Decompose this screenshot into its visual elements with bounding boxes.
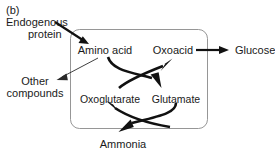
node-label-amino-acid: Amino acid [78,44,132,56]
arrow-oxoacid-to-glucose [196,46,229,54]
arrow-oxoglutarate-to-oxoacid [119,59,173,89]
pathway-diagram: (b) [0,0,275,153]
node-label-glucose: Glucose [235,44,275,56]
arrow-amino-acid-to-other-compounds [57,58,99,80]
node-label-other-compounds-line2: compounds [7,87,64,99]
node-label-oxoacid: Oxoacid [153,44,193,56]
node-label-endogenous-protein-line2: protein [28,28,62,40]
node-label-oxoglutarate: Oxoglutarate [80,93,140,105]
node-label-other-compounds-line1: Other [21,75,49,87]
node-label-ammonia: Ammonia [100,138,147,150]
node-label-glutamate: Glutamate [152,93,201,105]
panel-label: (b) [6,4,19,16]
arrow-amino-acid-to-glutamate [108,57,162,88]
node-label-endogenous-protein-line1: Endogenous [6,16,68,28]
figure-root: (b) [0,0,275,153]
